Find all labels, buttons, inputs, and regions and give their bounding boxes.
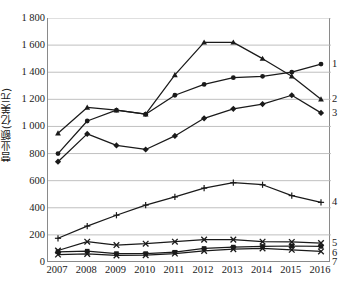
- series-label-1: 1: [332, 59, 337, 70]
- y-tick-label: 800: [5, 148, 45, 159]
- x-tick-label: 2012: [193, 264, 214, 276]
- x-tick-label: 2013: [222, 264, 243, 276]
- y-tick-label: 200: [5, 230, 45, 241]
- x-axis-tick-labels: 2007200820092010201120122013201420152016: [47, 264, 330, 284]
- x-tick-label: 2010: [134, 264, 155, 276]
- series-label-3: 3: [332, 108, 337, 119]
- y-tick-label: 1 400: [5, 67, 45, 78]
- y-tick-label: 400: [5, 203, 45, 214]
- series-label-2: 2: [332, 94, 337, 105]
- y-tick-label: 0: [5, 257, 45, 268]
- x-tick-label: 2009: [105, 264, 126, 276]
- x-tick-label: 2016: [310, 264, 331, 276]
- y-tick-label: 1 000: [5, 121, 45, 132]
- plot-svg: [48, 18, 331, 262]
- y-tick-label: 1 600: [5, 40, 45, 51]
- series-label-7: 7: [332, 257, 337, 268]
- x-tick-label: 2014: [251, 264, 272, 276]
- y-tick-label: 1 800: [5, 13, 45, 24]
- y-tick-label: 600: [5, 175, 45, 186]
- y-axis-tick-labels: 1 8001 6001 4001 2001 0008006004002000: [0, 0, 45, 293]
- x-tick-label: 2007: [47, 264, 68, 276]
- x-tick-label: 2011: [164, 264, 185, 276]
- plot-area: [47, 18, 330, 262]
- series-2: [55, 39, 324, 135]
- line-chart: 营业额(亿美元) 1 8001 6001 4001 2001 000800600…: [0, 0, 361, 293]
- x-tick-label: 2015: [280, 264, 301, 276]
- x-tick-label: 2008: [76, 264, 97, 276]
- series-end-labels: 1234567: [332, 0, 361, 293]
- y-tick-label: 1 200: [5, 94, 45, 105]
- series-4: [55, 180, 324, 242]
- series-label-4: 4: [332, 197, 337, 208]
